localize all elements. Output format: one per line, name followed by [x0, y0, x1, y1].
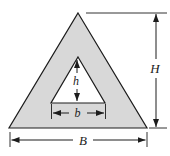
inner-height-label: h: [73, 74, 79, 88]
outer-base-label: B: [79, 133, 87, 148]
outer-height-label: H: [149, 61, 160, 76]
triangle-cross-section-diagram: H h b B: [0, 0, 170, 156]
inner-base-label: b: [75, 106, 81, 120]
figure-canvas: H h b B: [0, 0, 170, 156]
